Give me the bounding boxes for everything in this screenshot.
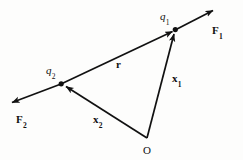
label-origin-O: O [143,145,151,156]
vector-diagram-figure: q1 q2 F1 F2 r x1 x2 O [0,0,243,160]
label-q2-sub: 2 [52,72,56,81]
vector-x2-line [66,87,147,139]
label-origin-base: O [143,144,151,156]
diagram-canvas [0,0,243,160]
label-x1-sub: 1 [178,80,182,89]
label-r-base: r [116,58,121,70]
label-q1: q1 [160,11,169,25]
label-x2: x2 [93,114,102,128]
label-x2-base: x [93,113,99,125]
label-r: r [116,59,121,70]
label-F1: F1 [212,25,222,39]
label-x1-base: x [172,72,178,84]
label-q1-base: q [160,10,166,22]
label-q2-base: q [46,64,52,76]
label-F2-base: F [16,113,23,125]
charge-dot-q2 [59,81,64,86]
label-x2-sub: 2 [99,121,103,130]
label-x1: x1 [172,73,181,87]
vector-x1-line [147,34,174,138]
label-F1-sub: 1 [219,32,223,41]
label-F2-sub: 2 [23,121,27,130]
charge-dot-q1 [173,27,178,32]
vector-F1-line [177,11,213,30]
label-q2: q2 [46,65,55,79]
vector-F2-line [12,84,61,103]
label-F2: F2 [16,114,26,128]
label-F1-base: F [212,24,219,36]
label-q1-sub: 1 [166,18,170,27]
